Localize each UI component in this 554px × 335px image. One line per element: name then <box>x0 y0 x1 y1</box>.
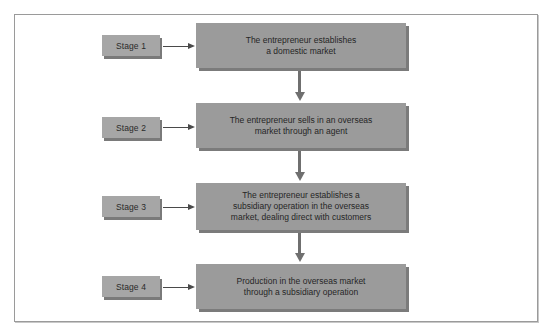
stage-4-label: Stage 4 <box>102 276 160 297</box>
stage-3-connector <box>163 207 189 208</box>
stage-4-box: Production in the overseas market throug… <box>196 264 406 309</box>
flow-arrow-2-3 <box>298 151 301 173</box>
stage-1-box: The entrepreneur establishes a domestic … <box>196 23 406 68</box>
stage-1-connector <box>163 46 189 47</box>
stage-3-label: Stage 3 <box>102 196 160 217</box>
arrow-down-icon <box>295 253 305 262</box>
stage-4-description: Production in the overseas market throug… <box>217 276 386 298</box>
arrow-right-icon <box>188 204 195 210</box>
flow-arrow-3-4 <box>298 233 301 254</box>
stage-3-description: The entrepreneur establishes a subsidiar… <box>211 190 391 223</box>
stage-1-description: The entrepreneur establishes a domestic … <box>226 35 377 57</box>
stage-3-box: The entrepreneur establishes a subsidiar… <box>196 183 406 230</box>
stage-2-box: The entrepreneur sells in an overseas ma… <box>196 103 406 148</box>
stage-2-connector <box>163 127 189 128</box>
stage-4-connector <box>163 287 189 288</box>
arrow-right-icon <box>188 284 195 290</box>
arrow-right-icon <box>188 124 195 130</box>
stage-2-description: The entrepreneur sells in an overseas ma… <box>210 115 393 137</box>
arrow-down-icon <box>295 92 305 101</box>
stage-1-label: Stage 1 <box>102 35 160 56</box>
stage-2-label: Stage 2 <box>102 117 160 138</box>
arrow-down-icon <box>295 172 305 181</box>
arrow-right-icon <box>188 43 195 49</box>
flow-arrow-1-2 <box>298 71 301 93</box>
